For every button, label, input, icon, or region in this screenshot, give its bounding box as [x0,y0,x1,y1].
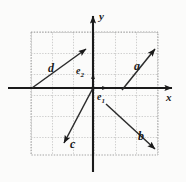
vector-label-b: b [138,130,144,142]
basis-label-e1-subscript: 1 [101,97,105,105]
origin-dot [91,86,94,89]
basis-label-e2-subscript: 2 [80,71,84,79]
basis-label-e1: e1 [97,92,105,105]
basis-label-e2: e2 [76,66,84,79]
vector-label-c: c [70,138,75,150]
x-axis-label: x [166,92,172,103]
y-axis-label: y [99,11,104,22]
vector-label-a: a [134,60,140,72]
vector-label-d: d [48,62,54,74]
vector-diagram-figure: y x a b c d e1 e2 [0,0,186,182]
diagram-canvas [0,0,186,182]
